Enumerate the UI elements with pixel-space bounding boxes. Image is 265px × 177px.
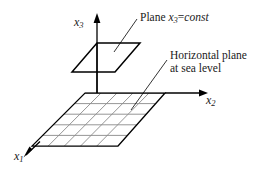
annotation-plane-const-value: const [184,11,208,23]
axis-label-x3-subscript: 3 [79,20,83,30]
annotation-plane-const: Plane x3=const [140,11,209,26]
axis-label-x1-subscript: 1 [19,154,23,164]
axis-x1 [24,142,41,158]
axis-label-x3: x3 [74,16,84,31]
figure-drawing [0,0,265,177]
annotation-horizontal-plane: Horizontal planeat sea level [170,49,247,75]
ground-plane-grid [32,93,165,146]
axis-x2 [165,90,208,97]
figure-container: x3 x2 x1 Plane x3=const Horizontal plane… [0,0,265,177]
leader-line-horizontal-plane [131,60,167,110]
axis-label-x2: x2 [206,94,216,109]
annotation-plane-const-prefix: Plane [140,11,166,23]
annotation-horizontal-plane-line2: at sea level [170,62,247,75]
upper-plane [72,43,140,72]
axis-label-x2-subscript: 2 [211,98,215,108]
annotation-horizontal-plane-line1: Horizontal plane [170,49,247,61]
axis-label-x1: x1 [14,150,24,165]
